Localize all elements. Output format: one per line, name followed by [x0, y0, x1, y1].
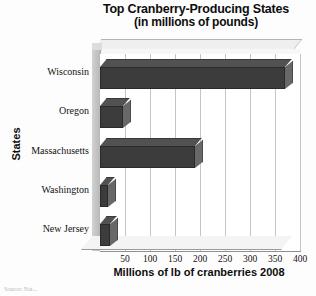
bar-front-face: [100, 67, 285, 89]
bar-side-face: [110, 218, 118, 246]
y-axis-label: Wisconsin: [47, 66, 89, 77]
bar-front-face: [100, 146, 195, 168]
plot-area: [92, 39, 300, 251]
y-axis-label: New Jersey: [43, 223, 89, 234]
bar-front-face: [100, 224, 110, 246]
bar-side-face: [285, 60, 293, 88]
bar-top-face: [100, 138, 202, 146]
bar-top-face: [100, 59, 292, 67]
bar-front-face: [100, 106, 123, 128]
source-note: Source: Nat...: [4, 286, 37, 292]
x-axis-title: Millions of lb of cranberries 2008: [92, 266, 306, 278]
bar: [100, 98, 132, 128]
bar-side-face: [195, 139, 203, 167]
chart-title-block: Top Cranberry-Producing States (in milli…: [82, 2, 310, 29]
x-axis-tick-label: 350: [263, 254, 287, 264]
x-axis-tick-label: 300: [238, 254, 262, 264]
chart-title: Top Cranberry-Producing States: [82, 2, 310, 16]
x-axis-tick-label: 100: [138, 254, 162, 264]
bar-side-face: [108, 179, 116, 207]
y-axis-labels: WisconsinOregonMassachusettsWashingtonNe…: [0, 39, 89, 251]
x-axis-tick-label: 400: [288, 254, 312, 264]
bar: [100, 216, 119, 246]
y-axis-label: Oregon: [59, 105, 89, 116]
chart-subtitle: (in millions of pounds): [82, 16, 310, 29]
bar-side-face: [123, 100, 131, 128]
x-axis-tick-label: 50: [113, 254, 137, 264]
gridline: [300, 54, 301, 251]
y-axis-label: Massachusetts: [31, 145, 89, 156]
y-axis-label: Washington: [41, 184, 89, 195]
bar: [100, 59, 294, 89]
x-axis-ticks: 50100150200250300350400: [92, 254, 307, 266]
x-axis-tick-label: 200: [188, 254, 212, 264]
chart-page: Top Cranberry-Producing States (in milli…: [0, 0, 316, 296]
x-axis-tick-label: 150: [163, 254, 187, 264]
x-axis-tick-label: 250: [213, 254, 237, 264]
bar-front-face: [100, 185, 108, 207]
bar: [100, 138, 204, 168]
bar: [100, 177, 117, 207]
